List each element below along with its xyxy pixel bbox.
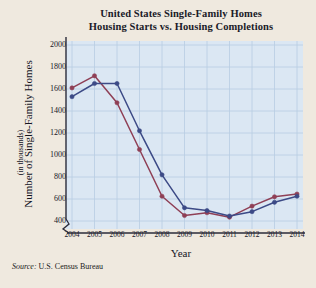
- chart-figure: United States Single-Family Homes Housin…: [0, 0, 316, 288]
- chart-canvas: [0, 0, 316, 288]
